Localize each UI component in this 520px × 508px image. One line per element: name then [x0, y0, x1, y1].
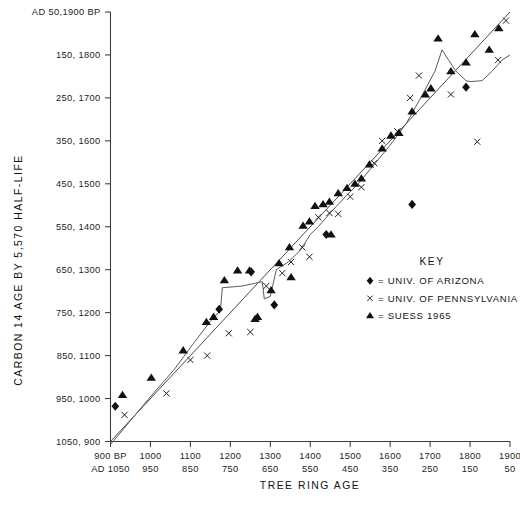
- y-tick-label: AD 50,1900 BP: [32, 7, 101, 17]
- legend-label: = SUESS 1965: [378, 310, 451, 321]
- chart-figure: AD 50,1900 BP150, 1800250, 1700350, 1600…: [0, 0, 520, 508]
- y-tick-label: 850, 1100: [57, 351, 101, 361]
- x-tick-label-ad: 150: [462, 464, 479, 474]
- x-tick-label-bp: 1200: [219, 451, 241, 461]
- x-tick-label-bp: 1000: [139, 451, 161, 461]
- y-tick-label: 750, 1200: [56, 308, 101, 318]
- y-tick-label: 650, 1300: [56, 265, 101, 275]
- x-tick-label-ad: 750: [222, 464, 239, 474]
- x-tick-label-ad: 450: [342, 464, 359, 474]
- x-tick-label-bp: 1400: [299, 451, 321, 461]
- x-tick-label-bp: 1300: [259, 451, 281, 461]
- x-tick-label-bp: 1900: [499, 451, 520, 461]
- chart-background: [0, 0, 520, 508]
- y-tick-label: 250, 1700: [56, 93, 101, 103]
- y-tick-label: 150, 1800: [56, 50, 101, 60]
- legend-label: = UNIV. OF PENNSYLVANIA: [378, 293, 518, 304]
- x-tick-label-ad: 950: [142, 464, 159, 474]
- y-tick-label: 350, 1600: [56, 136, 101, 146]
- x-tick-label-ad: 250: [422, 464, 439, 474]
- x-tick-label-ad: 550: [302, 464, 319, 474]
- y-tick-label: 550, 1400: [56, 222, 101, 232]
- x-tick-label-ad: AD 1050: [91, 464, 130, 474]
- x-tick-label-bp: 1700: [419, 451, 441, 461]
- x-tick-label-bp: 1800: [459, 451, 481, 461]
- x-tick-label-ad: 350: [382, 464, 399, 474]
- x-tick-label-bp: 1100: [180, 451, 201, 461]
- radiocarbon-calibration-chart: AD 50,1900 BP150, 1800250, 1700350, 1600…: [0, 0, 520, 508]
- x-tick-label-bp: 1500: [339, 451, 361, 461]
- legend-title: KEY: [419, 256, 444, 267]
- y-tick-label: 450, 1500: [56, 179, 101, 189]
- x-axis-title: TREE RING AGE: [260, 480, 360, 491]
- x-tick-label-ad: 50: [504, 464, 515, 474]
- y-tick-label: 950, 1000: [56, 394, 101, 404]
- y-tick-label: 1050, 900: [56, 437, 101, 447]
- y-axis-title: CARBON 14 AGE BY 5,570 HALF-LIFE: [13, 154, 24, 385]
- x-tick-label-bp: 1600: [379, 451, 401, 461]
- x-tick-label-bp: 900 BP: [94, 451, 127, 461]
- x-tick-label-ad: 850: [182, 464, 199, 474]
- x-tick-label-ad: 650: [262, 464, 279, 474]
- legend-label: = UNIV. OF ARIZONA: [378, 275, 484, 286]
